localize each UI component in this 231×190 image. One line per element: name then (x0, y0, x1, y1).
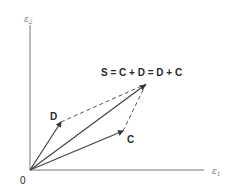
vector-c (30, 131, 123, 170)
x-axis-label: ε1 (212, 166, 221, 177)
vector-s (30, 85, 145, 170)
y-axis-label: ε2 (24, 14, 33, 25)
s-equation-label: S = C + D = D + C (101, 67, 182, 78)
dashed-c-to-s (123, 84, 146, 131)
d-label: D (50, 111, 57, 122)
vector-diagram: S = C + D = D + C D C 0 ε2 ε1 (0, 0, 231, 190)
vector-d (30, 122, 61, 170)
origin-label: 0 (20, 175, 26, 186)
c-label: C (127, 134, 134, 145)
